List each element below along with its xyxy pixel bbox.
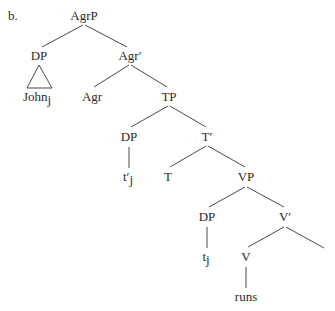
node-v-head: V [241, 249, 251, 264]
node-agr: Agr [82, 89, 103, 104]
triangle-abbreviation [27, 65, 52, 88]
branch-agrbar-agr [94, 65, 129, 87]
trace-prime-subscript: j [128, 172, 133, 187]
node-vp: VP [238, 169, 255, 184]
branch-vp-vbar [247, 187, 284, 207]
syntax-tree-diagram: b. AgrP DP Johnj Agr′ Agr TP DP t′j T′ T… [0, 0, 335, 311]
node-agrp: AgrP [70, 8, 97, 23]
john-label: John [23, 89, 48, 104]
example-label: b. [8, 8, 18, 23]
trace-subscript: j [205, 252, 210, 267]
john-subscript: j [46, 92, 51, 107]
branch-vp-dp [209, 187, 245, 207]
node-john: Johnj [23, 89, 51, 107]
branch-tp-tbar [170, 106, 206, 127]
node-dp-spec-vp: DP [199, 209, 216, 224]
node-t-head: T [164, 169, 172, 184]
node-runs: runs [235, 289, 257, 304]
node-v-bar: V′ [279, 209, 291, 224]
node-dp-spec-tp: DP [121, 129, 138, 144]
branch-vbar-v [248, 227, 284, 247]
branch-agrp-dp [42, 25, 83, 47]
node-t-bar: T′ [202, 129, 213, 144]
branch-tp-dp [131, 106, 168, 127]
branch-agrbar-tp [131, 65, 167, 87]
branch-agrp-agrbar [85, 25, 127, 47]
node-tp: TP [161, 89, 176, 104]
node-trace: tj [202, 249, 209, 267]
node-dp-subject: DP [31, 48, 48, 63]
node-trace-prime: t′j [123, 169, 133, 187]
branch-tbar-t [170, 146, 206, 167]
branch-vbar-complement [286, 227, 324, 248]
node-agr-bar: Agr′ [118, 48, 141, 63]
branch-tbar-vp [208, 146, 245, 167]
